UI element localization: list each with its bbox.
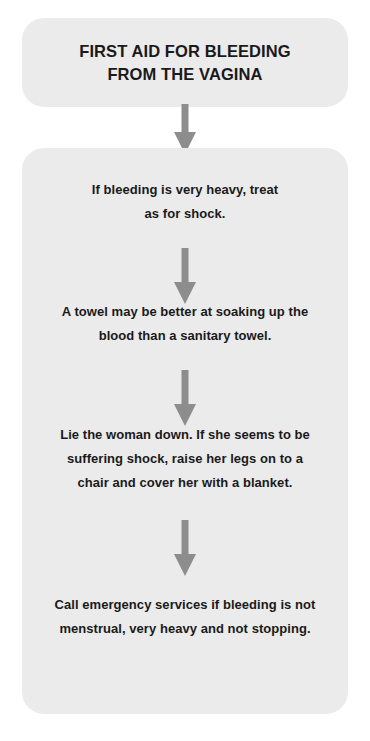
flowchart-step-1: If bleeding is very heavy, treat as for … xyxy=(22,178,348,226)
down-arrow-icon-step3-to-step4 xyxy=(174,520,196,576)
flowchart-container: FIRST AID FOR BLEEDING FROM THE VAGINA I… xyxy=(0,0,370,741)
flowchart-title-card: FIRST AID FOR BLEEDING FROM THE VAGINA xyxy=(22,18,348,107)
flowchart-step-2: A towel may be better at soaking up the … xyxy=(22,300,348,348)
down-arrow-icon-step1-to-step2 xyxy=(174,248,196,304)
step-3-line-2: suffering shock, raise her legs on to a xyxy=(36,447,334,471)
arrow-stem xyxy=(182,248,189,282)
title-line-2: FROM THE VAGINA xyxy=(79,63,291,86)
step-4-text: Call emergency services if bleeding is n… xyxy=(36,593,334,641)
step-2-line-2: blood than a sanitary towel. xyxy=(36,324,334,348)
down-arrow-icon-title-to-step1 xyxy=(174,104,196,154)
flowchart-steps-panel: If bleeding is very heavy, treat as for … xyxy=(22,148,348,714)
step-2-line-1: A towel may be better at soaking up the xyxy=(36,300,334,324)
step-3-line-3: chair and cover her with a blanket. xyxy=(36,471,334,495)
step-1-line-2: as for shock. xyxy=(36,202,334,226)
arrow-head xyxy=(174,554,196,576)
step-1-text: If bleeding is very heavy, treat as for … xyxy=(36,178,334,226)
down-arrow-icon-step2-to-step3 xyxy=(174,370,196,426)
step-3-text: Lie the woman down. If she seems to be s… xyxy=(36,423,334,495)
step-4-line-1: Call emergency services if bleeding is n… xyxy=(36,593,334,617)
title-line-1: FIRST AID FOR BLEEDING xyxy=(79,40,291,63)
step-4-line-2: menstrual, very heavy and not stopping. xyxy=(36,617,334,641)
step-1-line-1: If bleeding is very heavy, treat xyxy=(36,178,334,202)
step-2-text: A towel may be better at soaking up the … xyxy=(36,300,334,348)
flowchart-step-3: Lie the woman down. If she seems to be s… xyxy=(22,423,348,495)
arrow-stem xyxy=(182,520,189,554)
arrow-stem xyxy=(182,104,189,132)
flowchart-title: FIRST AID FOR BLEEDING FROM THE VAGINA xyxy=(63,40,307,86)
arrow-stem xyxy=(182,370,189,404)
step-3-line-1: Lie the woman down. If she seems to be xyxy=(36,423,334,447)
flowchart-step-4: Call emergency services if bleeding is n… xyxy=(22,593,348,641)
